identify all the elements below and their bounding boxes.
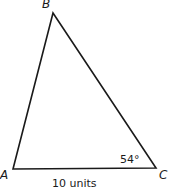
triangle-diagram: B A C 54° 10 units (0, 0, 170, 188)
angle-c-label: 54° (120, 153, 140, 166)
side-ac-label: 10 units (52, 177, 97, 188)
triangle-abc (13, 13, 156, 169)
vertex-label-c: C (159, 168, 168, 182)
vertex-label-a: A (0, 168, 8, 182)
vertex-label-b: B (42, 0, 50, 11)
